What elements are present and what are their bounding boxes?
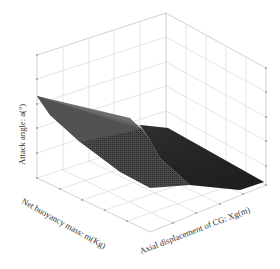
surface (37, 96, 264, 190)
surface-plot: Attack angle: a(°) Net buoyancy mass: m(… (0, 0, 280, 269)
y-axis-label: Net buoyancy mass: m(Kg) (20, 196, 108, 251)
z-axis-label: Attack angle: a(°) (17, 104, 27, 165)
